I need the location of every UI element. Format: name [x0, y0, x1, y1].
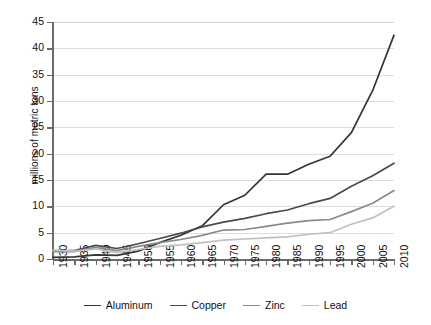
- x-tick-1945: [117, 260, 118, 265]
- x-tick-1985: [287, 260, 288, 265]
- y-tick-label-10: 10: [2, 199, 44, 211]
- x-tick-1965: [202, 260, 203, 265]
- line-chart-figure: millions of metric tons 0510152025303540…: [0, 0, 431, 325]
- legend-swatch-copper: [170, 305, 187, 306]
- series-line-aluminum: [53, 35, 394, 257]
- x-tick-1990: [309, 260, 310, 265]
- x-tick-1975: [245, 260, 246, 265]
- legend-item-lead[interactable]: Lead: [302, 300, 347, 311]
- y-tick-label-20: 20: [2, 147, 44, 159]
- y-tick-label-0: 0: [2, 252, 44, 264]
- legend-swatch-lead: [302, 305, 319, 306]
- x-tick-2005: [373, 260, 374, 265]
- y-tick-label-40: 40: [2, 41, 44, 53]
- y-tick-label-35: 35: [2, 68, 44, 80]
- y-tick-label-5: 5: [2, 226, 44, 238]
- y-axis-tick-labels: 051015202530354045: [0, 0, 44, 325]
- legend-item-zinc[interactable]: Zinc: [243, 300, 285, 311]
- chart-legend: AluminumCopperZincLead: [0, 300, 431, 311]
- x-tick-1940: [96, 260, 97, 265]
- x-tick-1955: [160, 260, 161, 265]
- legend-item-aluminum[interactable]: Aluminum: [84, 300, 153, 311]
- legend-swatch-zinc: [243, 305, 260, 306]
- series-line-zinc: [53, 191, 394, 252]
- y-tick-label-25: 25: [2, 120, 44, 132]
- legend-item-copper[interactable]: Copper: [170, 300, 226, 311]
- y-tick-label-30: 30: [2, 94, 44, 106]
- x-tick-2010: [394, 260, 395, 265]
- x-tick-1960: [181, 260, 182, 265]
- x-tick-1970: [224, 260, 225, 265]
- x-tick-1980: [266, 260, 267, 265]
- legend-label-lead: Lead: [324, 300, 347, 311]
- series-lines: [53, 22, 394, 259]
- x-tick-1935: [74, 260, 75, 265]
- x-tick-1995: [330, 260, 331, 265]
- legend-swatch-aluminum: [84, 305, 101, 306]
- x-tick-1950: [138, 260, 139, 265]
- x-tick-2000: [351, 260, 352, 265]
- y-tick-label-45: 45: [2, 15, 44, 27]
- y-tick-label-15: 15: [2, 173, 44, 185]
- legend-label-aluminum: Aluminum: [106, 300, 153, 311]
- legend-label-zinc: Zinc: [265, 300, 285, 311]
- x-tick-1930: [53, 260, 54, 265]
- x-tick-label-2010: 2010: [398, 245, 410, 268]
- series-line-copper: [53, 163, 394, 250]
- legend-label-copper: Copper: [192, 300, 226, 311]
